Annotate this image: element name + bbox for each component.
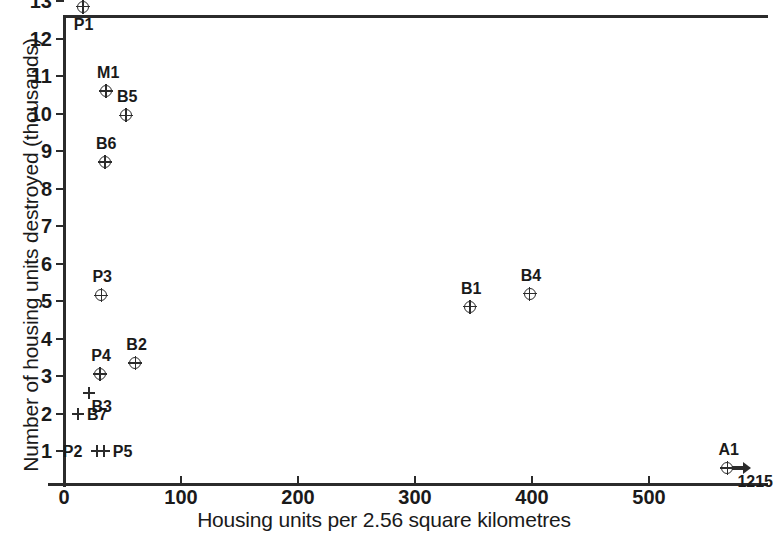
y-tick-label: 2 <box>12 404 52 424</box>
x-tick-mark <box>180 476 182 484</box>
y-tick-label: 6 <box>12 254 52 274</box>
y-tick-mark <box>56 188 64 190</box>
circle-plus-marker-icon <box>100 85 112 97</box>
circle-plus-marker-icon <box>77 1 89 13</box>
data-point-label: B6 <box>96 136 116 152</box>
x-tick-label: 300 <box>385 487 445 507</box>
plot-area <box>64 17 768 485</box>
data-point-label: P4 <box>91 348 111 364</box>
y-axis-line <box>63 15 66 487</box>
y-tick-mark <box>56 375 64 377</box>
data-point-label: B2 <box>126 337 146 353</box>
data-point-label: B7 <box>87 407 107 423</box>
data-point-label: B5 <box>117 89 137 105</box>
y-tick-label: 10 <box>12 104 52 124</box>
data-point-label: P1 <box>74 17 94 33</box>
offscale-arrow-icon <box>732 466 746 470</box>
x-tick-mark <box>531 476 533 484</box>
offscale-value-label: 1215 <box>737 474 773 490</box>
y-tick-label: 1 <box>12 441 52 461</box>
circle-plus-marker-icon <box>524 288 536 300</box>
y-tick-mark <box>56 413 64 415</box>
y-tick-label: 8 <box>12 179 52 199</box>
y-tick-mark <box>56 225 64 227</box>
y-tick-mark <box>56 38 64 40</box>
y-tick-label: 4 <box>12 329 52 349</box>
plus-marker-icon <box>98 445 110 457</box>
y-tick-label: 7 <box>12 216 52 236</box>
x-tick-label: 400 <box>502 487 562 507</box>
y-tick-mark <box>56 0 64 2</box>
x-tick-mark <box>414 476 416 484</box>
x-tick-label: 100 <box>151 487 211 507</box>
data-point-label: M1 <box>97 65 119 81</box>
x-tick-label: 500 <box>619 487 679 507</box>
x-tick-mark <box>63 476 65 484</box>
y-tick-label: 11 <box>12 66 52 86</box>
x-tick-mark <box>648 476 650 484</box>
y-tick-mark <box>56 338 64 340</box>
data-point-label: A1 <box>718 442 738 458</box>
x-tick-mark <box>297 476 299 484</box>
circle-plus-marker-icon <box>464 301 476 313</box>
x-axis-title: Housing units per 2.56 square kilometres <box>64 508 704 532</box>
data-point-label: P2 <box>63 444 83 460</box>
x-tick-label: 0 <box>34 487 94 507</box>
y-tick-label: 13 <box>12 0 52 11</box>
y-tick-mark <box>56 263 64 265</box>
plus-marker-icon <box>72 408 84 420</box>
x-tick-label: 200 <box>268 487 328 507</box>
y-tick-label: 5 <box>12 291 52 311</box>
y-tick-mark <box>56 150 64 152</box>
data-point-label: B4 <box>521 268 541 284</box>
y-tick-label: 3 <box>12 366 52 386</box>
y-tick-mark <box>56 113 64 115</box>
data-point-label: P3 <box>92 269 112 285</box>
y-tick-mark <box>56 300 64 302</box>
y-tick-mark <box>56 75 64 77</box>
y-tick-label: 12 <box>12 29 52 49</box>
data-point-label: P5 <box>113 444 133 460</box>
y-tick-label: 9 <box>12 141 52 161</box>
data-point-label: B1 <box>461 281 481 297</box>
plot-frame-top <box>63 15 768 18</box>
